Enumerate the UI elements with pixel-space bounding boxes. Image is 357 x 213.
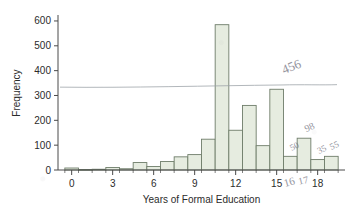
x-axis-tick-label: 3 [110,178,116,189]
handwritten-annotation: 35 [316,143,329,156]
handwritten-annotation-text: 16 [282,174,296,189]
histogram-figure: 01002003004005006000369121518Years of Fo… [0,0,357,213]
y-axis-tick-label: 300 [34,90,51,101]
x-axis-title: Years of Formal Education [143,194,260,205]
handwritten-annotation-text: 35 [316,143,329,156]
histogram-bar [243,105,257,170]
handwritten-annotation: 456 [280,56,304,77]
histogram-bar [202,139,216,170]
y-axis-tick-label: 600 [34,15,51,26]
histogram-bar [311,160,325,170]
y-axis-tick-label: 200 [34,115,51,126]
y-axis-tick-label: 500 [34,40,51,51]
handwritten-annotation-text: 55 [328,139,341,152]
x-axis-tick-label: 15 [271,178,283,189]
histogram-bar [284,156,298,170]
histogram-bar [297,138,311,170]
x-axis-tick-label: 18 [312,178,324,189]
y-axis-tick-label: 400 [34,65,51,76]
histogram-bar [256,146,270,170]
x-axis-tick-label: 0 [69,178,75,189]
y-axis-title: Frequency [11,69,22,116]
histogram-bar [325,156,339,170]
handwritten-annotation-text: 17 [297,174,309,187]
histogram-bar [174,157,188,170]
histogram-bar [161,162,175,170]
handwritten-reference-line [60,85,337,88]
handwritten-annotation: 16 [282,174,296,189]
histogram-bar [133,163,147,170]
histogram-bar [270,89,284,170]
handwritten-annotation: 98 [303,120,317,134]
histogram-bar [229,130,243,170]
histogram-chart: 01002003004005006000369121518Years of Fo… [0,0,357,213]
handwritten-annotation: 17 [297,174,309,187]
x-axis-tick-label: 9 [192,178,198,189]
y-axis-tick-label: 100 [34,140,51,151]
handwritten-annotation-text: 456 [280,56,304,77]
x-axis-tick-label: 6 [151,178,157,189]
histogram-bar [215,25,229,170]
y-axis-tick-label: 0 [45,165,51,176]
histogram-bar [147,167,161,170]
x-axis-tick-label: 12 [230,178,242,189]
handwritten-annotation-text: 98 [303,120,317,134]
histogram-bar [188,155,202,170]
handwritten-annotation: 55 [328,139,341,152]
